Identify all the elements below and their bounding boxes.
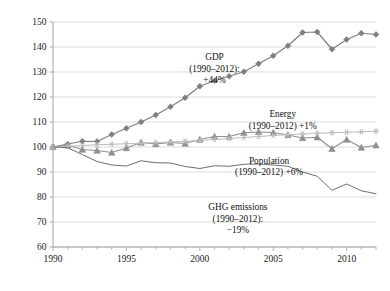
energy-annotation: Energy(1990–2012) +1% [249, 109, 317, 132]
population-annotation: Population(1990–2012) +6% [235, 156, 303, 179]
y-axis-tick-label: 100 [32, 142, 47, 152]
x-axis-tick-label: 2005 [264, 254, 283, 264]
x-axis-tick-label: 2000 [190, 254, 209, 264]
y-axis-tick-label: 60 [37, 242, 47, 252]
annotation-line: (1990–2012) +1% [249, 121, 317, 132]
index-line-chart: 60708090100110120130140150 1990199520002… [0, 0, 390, 291]
gdp-annotation: GDP(1990–2012):+44% [189, 52, 240, 86]
annotation-line: (1990–2012): [208, 214, 267, 225]
annotation-line: Energy [249, 109, 317, 120]
y-axis-tick-label: 80 [37, 192, 47, 202]
annotation-line: (1990–2012): [189, 64, 240, 75]
x-axis-tick-label: 1995 [117, 254, 136, 264]
annotation-line: Population [235, 156, 303, 167]
x-axis-tick-label: 2010 [337, 254, 356, 264]
annotation-line: GDP [189, 52, 240, 63]
y-axis-tick-label: 110 [33, 117, 47, 127]
y-axis-tick-label: 140 [32, 42, 47, 52]
y-axis-tick-label: 150 [32, 17, 47, 27]
y-axis-tick-label: 90 [37, 167, 47, 177]
annotation-line: (1990–2012) +6% [235, 167, 303, 178]
ghg-annotation: GHG emissions(1990–2012):−19% [208, 202, 267, 236]
annotation-line: GHG emissions [208, 202, 267, 213]
annotation-line: +44% [189, 75, 240, 86]
y-axis-tick-label: 130 [32, 67, 47, 77]
chart-container: 60708090100110120130140150 1990199520002… [0, 0, 390, 291]
y-axis-tick-label: 120 [32, 92, 47, 102]
x-axis-tick-label: 1990 [44, 254, 63, 264]
annotation-line: −19% [208, 225, 267, 236]
y-axis-tick-label: 70 [37, 217, 47, 227]
